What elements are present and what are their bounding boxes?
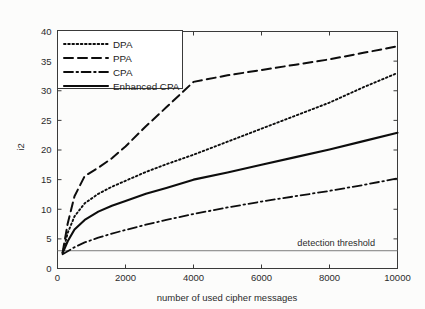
y-axis-tick-labels: 0510152025303540 — [41, 26, 52, 274]
x-tick-label: 4000 — [183, 272, 204, 283]
y-tick-label: 40 — [41, 26, 52, 37]
y-axis-title: i2 — [15, 143, 26, 150]
series-dpa — [63, 73, 398, 253]
series-enhanced-cpa — [63, 133, 398, 253]
x-tick-label: 6000 — [251, 272, 272, 283]
figure-container: 0510152025303540 0200040006000800010000 … — [0, 0, 425, 309]
y-tick-label: 5 — [46, 233, 51, 244]
x-tick-label: 2000 — [115, 272, 136, 283]
x-axis-title: number of used cipher messages — [157, 292, 298, 303]
y-tick-label: 10 — [41, 204, 52, 215]
legend: DPAPPACPAEnhanced CPA — [58, 31, 183, 92]
legend-label-dpa: DPA — [113, 39, 133, 50]
y-tick-label: 15 — [41, 174, 52, 185]
legend-label-cpa: CPA — [113, 67, 133, 78]
x-axis-tick-labels: 0200040006000800010000 — [55, 272, 411, 283]
y-tick-label: 0 — [46, 263, 51, 274]
legend-label-ppa: PPA — [113, 53, 132, 64]
x-tick-label: 0 — [55, 272, 60, 283]
legend-label-enhanced-cpa: Enhanced CPA — [113, 81, 180, 92]
y-tick-label: 25 — [41, 115, 52, 126]
detection-threshold-label: detection threshold — [297, 238, 375, 248]
x-tick-label: 10000 — [384, 272, 410, 283]
y-tick-label: 30 — [41, 85, 52, 96]
x-tick-label: 8000 — [319, 272, 340, 283]
line-chart: 0510152025303540 0200040006000800010000 … — [0, 0, 425, 309]
y-tick-label: 20 — [41, 144, 52, 155]
y-tick-label: 35 — [41, 56, 52, 67]
